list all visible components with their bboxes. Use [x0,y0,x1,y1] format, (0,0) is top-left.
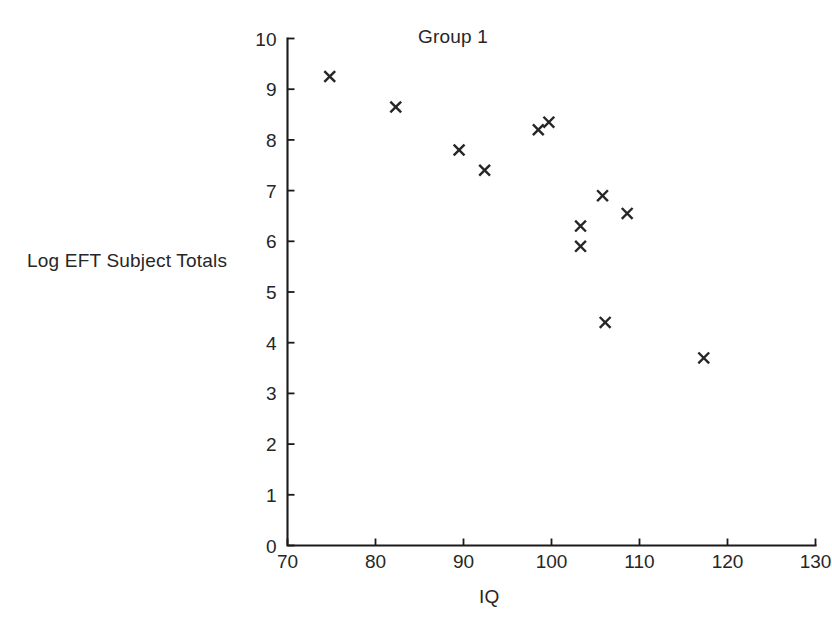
x-tick-label: 130 [800,551,832,572]
y-tick-label: 8 [266,130,277,151]
data-point-group [324,71,709,363]
x-tick-label: 90 [453,551,474,572]
x-tick-label: 80 [365,551,386,572]
x-tick-label: 100 [536,551,568,572]
y-tick-label: 6 [266,231,277,252]
y-tick-label: 0 [266,536,277,557]
y-tick-group: 012345678910 [255,29,294,557]
data-point [533,124,544,135]
x-tick-label: 70 [277,551,298,572]
y-tick-label: 4 [266,333,277,354]
data-point [622,208,633,219]
y-tick-label: 9 [266,79,277,100]
scatter-plot-figure: Group 1 Log EFT Subject Totals IQ 708090… [0,0,832,621]
y-tick-label: 1 [266,485,277,506]
x-tick-group: 708090100110120130 [277,539,831,572]
data-point [324,71,335,82]
y-tick-label: 10 [255,29,276,50]
y-tick-label: 7 [266,181,277,202]
axis-spine [288,39,816,546]
x-tick-label: 120 [712,551,744,572]
y-tick-label: 2 [266,434,277,455]
data-point [543,117,554,128]
y-tick-label: 5 [266,282,277,303]
data-point [454,145,465,156]
axes-group [288,39,816,546]
data-point [390,102,401,113]
data-point [479,165,490,176]
data-point [698,353,709,364]
data-point [600,317,611,328]
data-point [575,221,586,232]
x-tick-label: 110 [624,551,654,572]
plot-area: 708090100110120130 012345678910 [0,0,832,621]
data-point [597,190,608,201]
data-point [575,241,586,252]
y-tick-label: 3 [266,383,277,404]
